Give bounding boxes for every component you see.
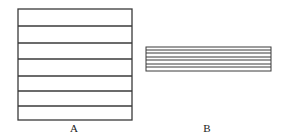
box-a-horizontal-lines bbox=[18, 9, 132, 120]
label-b: B bbox=[203, 122, 210, 134]
label-a: A bbox=[70, 122, 78, 134]
box-b-compressed-lines bbox=[146, 47, 271, 71]
diagram-canvas bbox=[0, 0, 289, 136]
